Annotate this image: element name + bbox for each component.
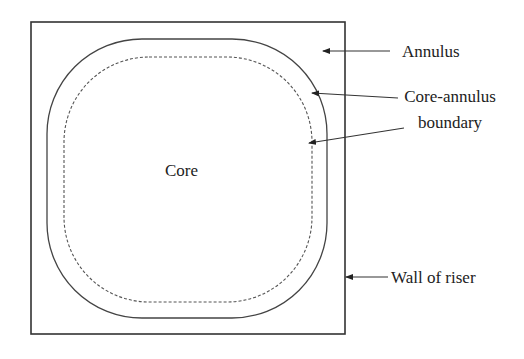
boundary-label-line1: Core-annulus	[380, 88, 520, 105]
core-label: Core	[165, 162, 198, 179]
wall-label: Wall of riser	[391, 269, 476, 286]
boundary-label-line2: boundary	[380, 114, 520, 131]
riser-cross-section-diagram: Core Annulus Core-annulus boundary Wall …	[0, 0, 524, 359]
annulus-label: Annulus	[402, 43, 460, 60]
